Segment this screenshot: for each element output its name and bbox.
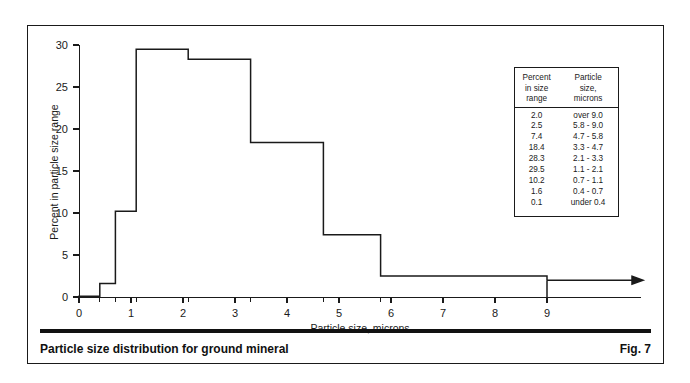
- figure-caption: Particle size distribution for ground mi…: [40, 342, 289, 356]
- cell-size-range: 3.3 - 4.7: [558, 143, 618, 154]
- header-size-line-3: microns: [560, 94, 616, 105]
- open-ended-arrow-head: [632, 276, 643, 284]
- cell-percent: 2.0: [515, 107, 558, 121]
- particle-size-table: Percent in size range Particle size, mic…: [515, 73, 618, 209]
- table-row: 29.51.1 - 2.1: [515, 165, 618, 176]
- header-size-line-2: size,: [560, 84, 616, 95]
- table-row: 0.1under 0.4: [515, 198, 618, 209]
- cell-percent: 0.1: [515, 198, 558, 209]
- table-row: 2.55.8 - 9.0: [515, 121, 618, 132]
- table-row: 28.32.1 - 3.3: [515, 154, 618, 165]
- header-percent-line-2: in size: [517, 84, 556, 95]
- cell-size-range: under 0.4: [558, 198, 618, 209]
- table-head: Percent in size range Particle size, mic…: [515, 73, 618, 107]
- cell-size-range: 4.7 - 5.8: [558, 132, 618, 143]
- table-row: 7.44.7 - 5.8: [515, 132, 618, 143]
- header-percent-in-size-range: Percent in size range: [515, 73, 558, 105]
- cell-size-range: over 9.0: [558, 107, 618, 121]
- header-percent-line-1: Percent: [517, 73, 556, 84]
- figure-frame: 051015202530 0123456789 Percent in parti…: [27, 25, 664, 364]
- table-body: 2.0over 9.02.55.8 - 9.07.44.7 - 5.818.43…: [515, 107, 618, 209]
- table-header-row: Percent in size range Particle size, mic…: [515, 73, 618, 105]
- data-table-panel: Percent in size range Particle size, mic…: [514, 67, 619, 217]
- cell-percent: 18.4: [515, 143, 558, 154]
- table-row: 1.60.4 - 0.7: [515, 187, 618, 198]
- cell-size-range: 0.4 - 0.7: [558, 187, 618, 198]
- cell-percent: 1.6: [515, 187, 558, 198]
- caption-row: Particle size distribution for ground mi…: [40, 339, 651, 359]
- table-row: 10.20.7 - 1.1: [515, 176, 618, 187]
- table-row: 18.43.3 - 4.7: [515, 143, 618, 154]
- cell-percent: 2.5: [515, 121, 558, 132]
- plot-area: 051015202530 0123456789 Percent in parti…: [28, 26, 665, 316]
- histogram-outline: [79, 49, 547, 297]
- cell-percent: 10.2: [515, 176, 558, 187]
- cell-percent: 7.4: [515, 132, 558, 143]
- figure-number: Fig. 7: [620, 342, 651, 356]
- header-particle-size-microns: Particle size, microns: [558, 73, 618, 105]
- header-size-line-1: Particle: [560, 73, 616, 84]
- cell-percent: 28.3: [515, 154, 558, 165]
- cell-percent: 29.5: [515, 165, 558, 176]
- table-row: 2.0over 9.0: [515, 107, 618, 121]
- header-percent-line-3: range: [517, 94, 556, 105]
- cell-size-range: 1.1 - 2.1: [558, 165, 618, 176]
- caption-divider-rule: [40, 329, 651, 333]
- cell-size-range: 2.1 - 3.3: [558, 154, 618, 165]
- cell-size-range: 5.8 - 9.0: [558, 121, 618, 132]
- cell-size-range: 0.7 - 1.1: [558, 176, 618, 187]
